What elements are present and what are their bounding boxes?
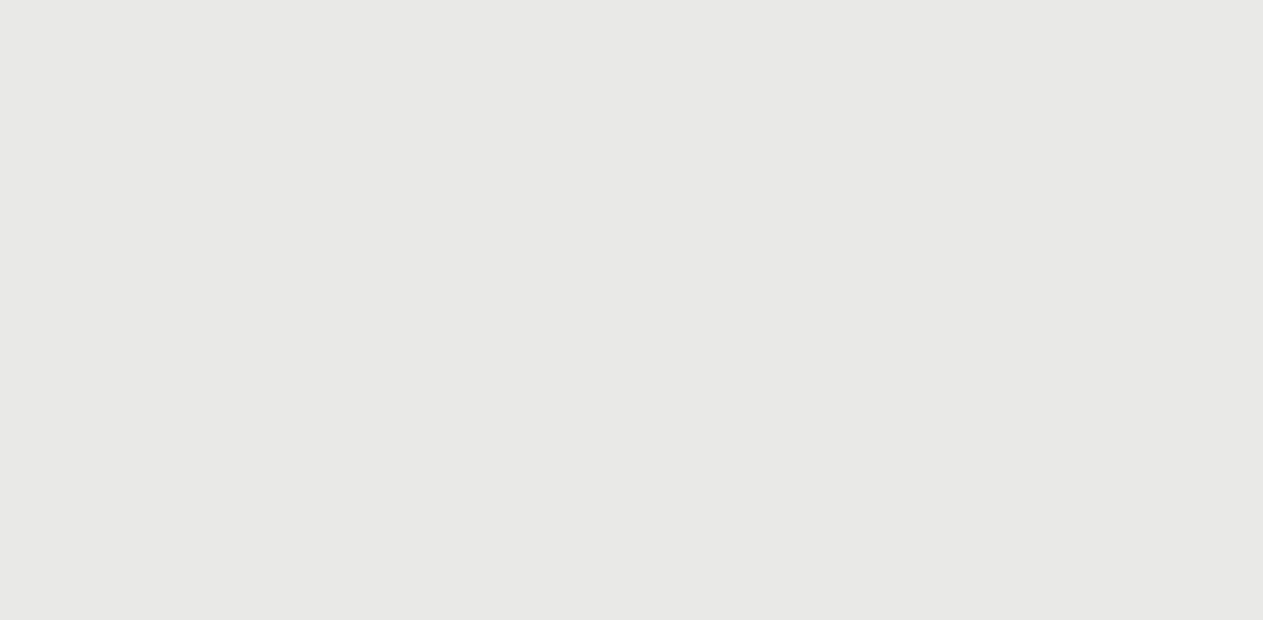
caption-fragment xyxy=(0,608,1263,620)
yield-chart xyxy=(0,0,1263,620)
chart-figure xyxy=(0,0,1263,620)
figure-background xyxy=(0,0,1263,620)
